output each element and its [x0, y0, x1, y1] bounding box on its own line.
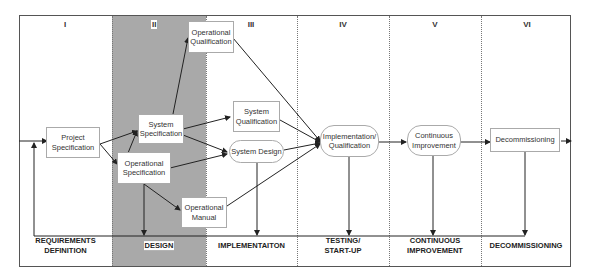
node-label: System [244, 107, 269, 116]
phase-label-line: DEFINITION [44, 246, 87, 255]
node-label: Manual [192, 213, 217, 222]
node-operational-qualification: OperationalQualification [188, 21, 234, 53]
node-operational-manual: OperationalManual [181, 197, 227, 228]
node-label: Operational [192, 28, 231, 37]
node-label: Specification [140, 129, 183, 138]
node-label: Qualification [190, 37, 231, 46]
node-implementation-qualification: Implementation/Qualification [320, 125, 379, 157]
phase-label-line: TESTING/ [326, 236, 361, 245]
phase-label-implementation: IMPLEMENTAITON [206, 241, 297, 251]
phase-label-continuous-improvement: CONTINUOUSIMPROVEMENT [389, 236, 481, 256]
phase-label-line: CONTINUOUS [410, 236, 460, 245]
node-label: Operational [125, 159, 164, 168]
node-label: Implementation/ [323, 132, 376, 141]
node-label: Specification [52, 143, 95, 152]
node-label: Decommissioning [495, 135, 554, 144]
phase-label-requirements: REQUIREMENTSDEFINITION [19, 236, 112, 256]
phase-label-line: REQUIREMENTS [35, 236, 95, 245]
node-operational-specification: OperationalSpecification [117, 152, 171, 184]
node-label: System [148, 120, 173, 129]
lifecycle-diagram: I II III IV V VI [0, 0, 589, 278]
phase-label-design: DESIGN [112, 241, 206, 251]
phase-label-line: IMPROVEMENT [407, 246, 463, 255]
node-system-design: System Design [229, 140, 284, 163]
node-label: Specification [123, 168, 166, 177]
node-label: Operational [185, 203, 224, 212]
phase-label-line: DECOMMISSIONING [490, 241, 563, 250]
phase-label-line: IMPLEMENTAITON [218, 241, 285, 250]
node-label: Continuous [415, 131, 453, 140]
node-label: Project [61, 133, 84, 142]
node-system-qualification: SystemQualification [233, 101, 280, 132]
phase-label-line: START-UP [325, 246, 362, 255]
phase-label-testing: TESTING/START-UP [297, 236, 389, 256]
node-system-specification: SystemSpecification [138, 114, 184, 144]
node-project-specification: ProjectSpecification [46, 127, 100, 158]
node-label: System Design [231, 147, 281, 156]
node-decommissioning: Decommissioning [490, 128, 560, 152]
phase-label-line: DESIGN [144, 241, 175, 250]
node-label: Qualification [236, 117, 277, 126]
phase-label-decommissioning: DECOMMISSIONING [481, 241, 571, 251]
node-label: Qualification [329, 141, 370, 150]
node-continuous-improvement: ContinuousImprovement [407, 125, 461, 156]
node-label: Improvement [412, 141, 456, 150]
